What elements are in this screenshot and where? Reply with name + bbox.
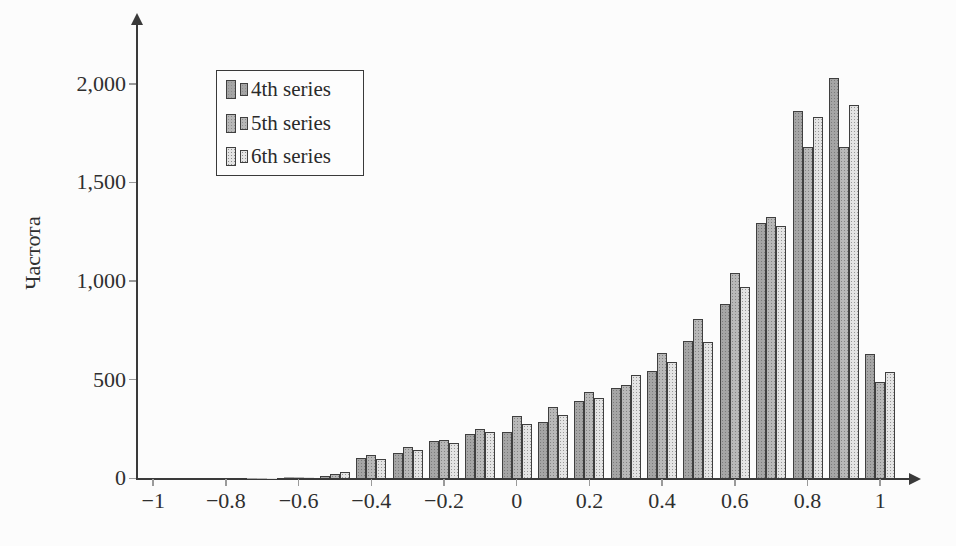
x-tick xyxy=(298,479,300,486)
bar-s4-bin2 xyxy=(320,476,330,479)
bar-s4-bin0 xyxy=(247,478,257,479)
bar-s5-bin5 xyxy=(439,440,449,479)
bar-s6-bin14 xyxy=(776,226,786,478)
bar-s6-bin4 xyxy=(413,450,423,478)
bar-s5-bin17 xyxy=(875,382,885,478)
y-tick xyxy=(129,478,136,480)
x-tick xyxy=(734,479,736,486)
legend-bar-swatch-icon xyxy=(226,80,236,99)
bar-s6-bin7 xyxy=(522,424,532,478)
x-tick xyxy=(589,479,591,486)
bar-s5-bin3 xyxy=(366,455,376,478)
bar-s4-bin11 xyxy=(647,371,657,478)
bar-s6-bin9 xyxy=(594,398,604,478)
bar-s5-bin1 xyxy=(294,477,304,478)
legend-row: 6th series xyxy=(226,142,363,172)
bar-s6-bin6 xyxy=(485,432,495,478)
legend: 4th series5th series6th series xyxy=(216,70,364,176)
bar-s5-bin10 xyxy=(621,385,631,478)
bar-s5-bin11 xyxy=(657,353,667,478)
bar-s4-bin4 xyxy=(393,453,403,479)
histogram-figure: 05001,0001,5002,000−1−0.8−0.6−0.4−0.200.… xyxy=(0,0,956,546)
x-tick xyxy=(371,479,373,486)
y-axis-line xyxy=(136,24,138,479)
legend-bar-swatch-icon xyxy=(240,83,248,96)
x-tick xyxy=(661,479,663,486)
x-tick xyxy=(225,479,227,486)
bar-s5-bin12 xyxy=(693,319,703,479)
y-tick-label: 500 xyxy=(30,366,126,394)
y-tick xyxy=(129,83,136,85)
bar-s6-bin11 xyxy=(667,362,677,479)
bar-s4-bin8 xyxy=(538,422,548,478)
bar-s5-bin8 xyxy=(548,407,558,478)
bar-s6-bin5 xyxy=(449,443,459,478)
bar-s6-bin0 xyxy=(267,478,277,479)
x-tick xyxy=(807,479,809,486)
y-tick-label: 2,000 xyxy=(30,70,126,98)
bar-s4-bin3 xyxy=(356,458,366,479)
x-tick xyxy=(443,479,445,486)
legend-bar-swatch-icon xyxy=(240,150,248,163)
bar-s6-bin16 xyxy=(849,105,859,478)
bar-s4-bin5 xyxy=(429,441,439,478)
bar-s5-bin9 xyxy=(584,392,594,479)
bar-s4-bin7 xyxy=(502,432,512,478)
bar-s5-bin16 xyxy=(839,147,849,479)
bar-s5-bin6 xyxy=(475,429,485,478)
bar-s5-bin4 xyxy=(403,447,413,478)
bar-s6-bin10 xyxy=(631,375,641,479)
bar-s4-bin1 xyxy=(284,477,294,478)
bar-s6-bin17 xyxy=(885,372,895,478)
legend-bar-swatch-icon xyxy=(240,117,248,130)
bar-s5-bin15 xyxy=(803,147,813,478)
bar-s5-bin7 xyxy=(512,416,522,478)
bar-s6-bin15 xyxy=(813,117,823,479)
bar-s4-bin15 xyxy=(793,111,803,479)
bar-s5-bin13 xyxy=(730,273,740,479)
legend-label: 4th series xyxy=(251,79,331,100)
y-tick xyxy=(129,379,136,381)
legend-row: 5th series xyxy=(226,108,363,138)
x-tick-label: 1 xyxy=(835,487,925,515)
x-axis-arrow-icon xyxy=(909,473,921,485)
bar-s5-bin0 xyxy=(257,478,267,479)
x-tick xyxy=(152,479,154,486)
legend-bar-swatch-icon xyxy=(226,114,236,133)
legend-row: 4th series xyxy=(226,75,363,105)
y-axis-label: Частота xyxy=(20,216,46,290)
bar-s6-bin1 xyxy=(304,477,314,479)
bar-s4-bin12 xyxy=(683,341,693,478)
bar-s4-bin13 xyxy=(720,304,730,479)
bar-s4-bin9 xyxy=(574,401,584,478)
y-tick-label: 1,500 xyxy=(30,168,126,196)
bar-s4-bin16 xyxy=(829,78,839,479)
y-axis-arrow-icon xyxy=(131,13,143,25)
bar-s4-bin6 xyxy=(465,434,475,478)
bar-s4-bin17 xyxy=(865,354,875,478)
bar-s6-bin2 xyxy=(340,472,350,479)
bar-s4-bin10 xyxy=(611,388,621,478)
legend-label: 5th series xyxy=(251,113,331,134)
y-tick xyxy=(129,182,136,184)
x-tick xyxy=(879,479,881,486)
plot-area: 05001,0001,5002,000−1−0.8−0.6−0.4−0.200.… xyxy=(0,0,956,546)
bar-s5-bin2 xyxy=(330,474,340,478)
bar-s4-bin14 xyxy=(756,223,766,478)
bar-s6-bin3 xyxy=(376,459,386,479)
bar-s5-bin14 xyxy=(766,217,776,479)
y-tick xyxy=(129,280,136,282)
bar-s6-bin13 xyxy=(740,287,750,478)
bar-s6-bin8 xyxy=(558,415,568,478)
legend-bar-swatch-icon xyxy=(226,147,236,166)
x-tick xyxy=(516,479,518,486)
legend-label: 6th series xyxy=(251,146,331,167)
bar-s6-bin12 xyxy=(703,342,713,478)
